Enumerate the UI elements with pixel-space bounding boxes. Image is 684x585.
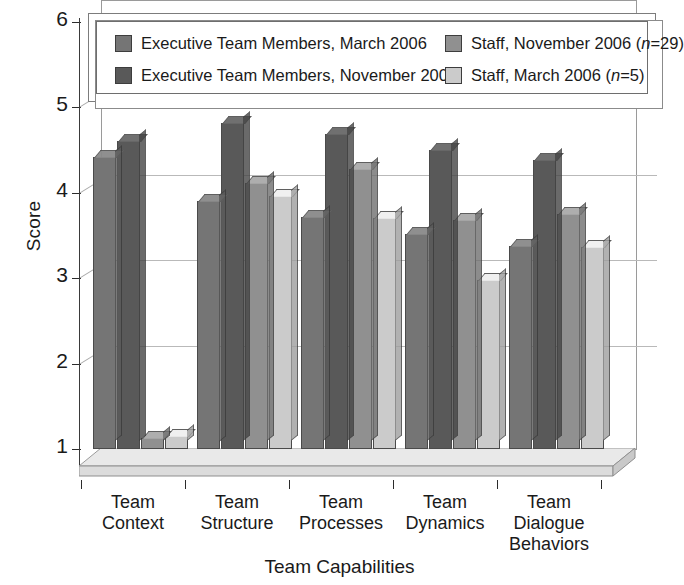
bar-side-face bbox=[579, 202, 586, 441]
x-axis-category-line: Dialogue bbox=[484, 513, 614, 534]
x-axis-category-label: TeamDialogueBehaviors bbox=[484, 492, 614, 555]
bar bbox=[301, 217, 324, 449]
bar-side-face bbox=[499, 268, 506, 441]
bar-side-face bbox=[475, 208, 482, 441]
legend-label: Executive Team Members, March 2006 bbox=[141, 34, 427, 53]
legend-n-symbol: n bbox=[641, 34, 650, 52]
bar-side-face bbox=[395, 207, 402, 441]
y-tick-label-1: 1 bbox=[34, 435, 68, 456]
bar-side-face bbox=[243, 111, 250, 441]
legend-swatch bbox=[115, 35, 132, 52]
bar-side-face bbox=[427, 222, 434, 441]
bar-side-face bbox=[531, 234, 538, 441]
bar-side-face bbox=[291, 184, 298, 441]
x-tick-mark bbox=[393, 480, 394, 489]
bar-side-face bbox=[371, 157, 378, 441]
x-tick-mark bbox=[81, 480, 82, 489]
bar-side-face bbox=[115, 145, 122, 441]
x-tick-mark bbox=[289, 480, 290, 489]
legend-n-symbol: n bbox=[611, 66, 620, 84]
legend-item[interactable]: Executive Team Members, March 2006 bbox=[115, 28, 427, 58]
plot-floor-3d bbox=[79, 448, 635, 484]
bar-side-face bbox=[603, 235, 610, 441]
legend-swatch bbox=[445, 67, 462, 84]
legend-label: Staff, March 2006 (n=5) bbox=[471, 66, 645, 85]
x-axis-category-line: Team bbox=[484, 492, 614, 513]
y-axis-line bbox=[79, 18, 80, 466]
bar bbox=[141, 438, 164, 449]
x-tick-mark bbox=[601, 480, 602, 489]
legend-label: Executive Team Members, November 2006 bbox=[141, 66, 457, 85]
bar bbox=[509, 246, 532, 449]
legend-swatch bbox=[115, 67, 132, 84]
bar-side-face bbox=[555, 148, 562, 441]
legend: Executive Team Members, March 2006Execut… bbox=[96, 21, 648, 94]
x-axis-title: Team Capabilities bbox=[0, 556, 679, 578]
y-tick-label-4: 4 bbox=[34, 179, 68, 200]
bar bbox=[197, 201, 220, 450]
y-tick-label-5: 5 bbox=[34, 93, 68, 114]
x-tick-mark bbox=[497, 480, 498, 489]
bar-side-face bbox=[267, 172, 274, 441]
legend-item[interactable]: Staff, March 2006 (n=5) bbox=[445, 60, 645, 90]
bar-side-face bbox=[347, 122, 354, 441]
x-tick-mark bbox=[185, 480, 186, 489]
bar bbox=[93, 157, 116, 449]
bar bbox=[405, 234, 428, 449]
bar-side-face bbox=[451, 138, 458, 441]
y-tick-label-3: 3 bbox=[34, 264, 68, 285]
legend-item[interactable]: Executive Team Members, November 2006 bbox=[115, 60, 457, 90]
y-tick-label-2: 2 bbox=[34, 350, 68, 371]
bar-side-face bbox=[139, 129, 146, 441]
x-axis-category-line: Behaviors bbox=[484, 534, 614, 555]
y-tick-label-6: 6 bbox=[34, 8, 68, 29]
legend-item[interactable]: Staff, November 2006 (n=29) bbox=[445, 28, 684, 58]
bar-side-face bbox=[323, 205, 330, 441]
legend-label: Staff, November 2006 (n=29) bbox=[471, 34, 684, 53]
bar-side-face bbox=[219, 189, 226, 441]
bar bbox=[165, 436, 188, 449]
legend-swatch bbox=[445, 35, 462, 52]
